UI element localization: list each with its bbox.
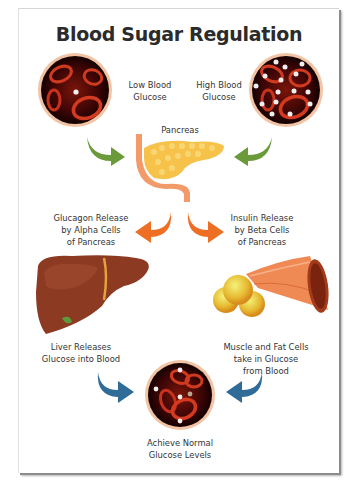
blue-arrow-left-icon [224,370,264,404]
low-glucose-blood-icon [37,52,113,128]
label-line: Glucose Levels [130,449,230,461]
label-line: of Pancreas [46,236,136,248]
label-line: by Beta Cells [222,224,302,236]
low-glucose-label: Low Blood Glucose [117,79,183,103]
label-line: of Pancreas [222,236,302,248]
liver-releases-label: Liver Releases Glucose into Blood [36,341,126,365]
label-line: Low Blood [117,79,183,91]
label-line: Glucose [186,91,252,103]
label-line: Glucose [117,91,183,103]
green-arrow-left-icon [232,135,274,167]
insulin-release-label: Insulin Release by Beta Cells of Pancrea… [222,212,302,248]
label-line: Glucagon Release [46,212,136,224]
green-arrow-right-icon [85,135,127,167]
pancreas-icon [132,132,230,204]
label-line: Muscle and Fat Cells [216,341,316,353]
high-glucose-blood-icon [248,52,324,128]
blue-arrow-right-icon [96,370,136,404]
achieve-normal-label: Achieve Normal Glucose Levels [130,437,230,461]
label-line: by Alpha Cells [46,224,136,236]
diagram-title: Blood Sugar Regulation [19,23,339,45]
high-glucose-label: High Blood Glucose [186,79,252,103]
label-line: take in Glucose [216,353,316,365]
orange-arrow-right-icon [186,210,226,244]
label-line: Achieve Normal [130,437,230,449]
label-line: Insulin Release [222,212,302,224]
label-line: Glucose into Blood [36,353,126,365]
liver-icon [32,252,154,338]
label-line: Liver Releases [36,341,126,353]
glucagon-release-label: Glucagon Release by Alpha Cells of Pancr… [46,212,136,248]
label-line: High Blood [186,79,252,91]
muscle-fat-cells-icon [210,254,334,328]
normal-glucose-blood-icon [144,359,216,431]
orange-arrow-left-icon [133,210,173,244]
